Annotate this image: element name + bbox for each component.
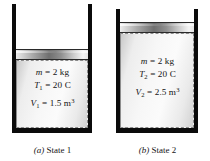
panel-state-2: m = 2 kg m = 2 kg T2 = 20 C T2 = 20 C V2… (105, 0, 210, 161)
cylinder-base-state-1 (12, 128, 92, 133)
piston-sheen (119, 24, 195, 26)
panel-state-1: m = 2 kg m = 2 kg T1 = 20 C T1 = 20 C V1… (0, 0, 105, 161)
caption-body-state-2: State 2 (149, 145, 176, 155)
piston-sheen (15, 51, 89, 53)
caption-state-2: (b) State 2 (105, 145, 210, 155)
property-mass-state-2: m = 2 kg m = 2 kg (105, 55, 210, 68)
property-volume-state-2: V2 = 2.5 m3 V2 = 2.5 m3 (105, 83, 210, 101)
property-temperature-state-2: T2 = 20 C T2 = 20 C (105, 68, 210, 84)
caption-tag-state-2: (b) (139, 145, 150, 155)
figure-piston-cylinder-two-states: m = 2 kg m = 2 kg T1 = 20 C T1 = 20 C V1… (0, 0, 210, 161)
piston-state-2 (119, 22, 195, 33)
property-temperature-state-1: T1 = 20 C T1 = 20 C (0, 79, 105, 95)
property-mass-state-1: m = 2 kg m = 2 kg (0, 66, 105, 79)
properties-state-2: m = 2 kg m = 2 kg T2 = 20 C T2 = 20 C V2… (105, 55, 210, 101)
piston-state-1 (15, 49, 89, 60)
caption-body-state-1: State 1 (44, 145, 71, 155)
cylinder-base-state-2 (116, 128, 198, 133)
caption-state-1: (a) State 1 (0, 145, 105, 155)
properties-state-1: m = 2 kg m = 2 kg T1 = 20 C T1 = 20 C V1… (0, 66, 105, 112)
caption-tag-state-1: (a) (34, 145, 45, 155)
property-volume-state-1: V1 = 1.5 m3 V1 = 1.5 m3 (0, 94, 105, 112)
